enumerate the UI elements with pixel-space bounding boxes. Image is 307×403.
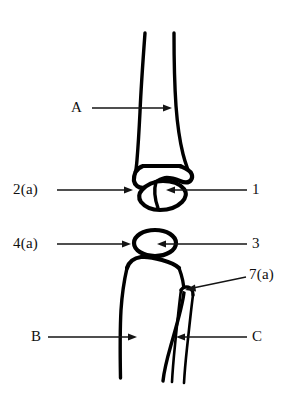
anatomy-figure: A 2(a) 1 4(a) 3 7(a) B C <box>0 0 307 403</box>
oval-bone-outline <box>134 230 176 256</box>
leader-b <box>48 334 137 341</box>
label-c: C <box>252 329 262 344</box>
label-2a: 2(a) <box>13 182 38 197</box>
lower-bone-proximal-plateau <box>127 257 179 268</box>
label-b: B <box>31 329 41 344</box>
label-4a: 4(a) <box>13 236 38 251</box>
label-1: 1 <box>252 182 260 197</box>
oval-bone-group <box>134 230 176 256</box>
lower-bone-left-border <box>120 268 127 378</box>
leader-7a <box>185 277 246 292</box>
upper-bone-right-border <box>174 33 188 170</box>
label-7a: 7(a) <box>249 267 274 282</box>
leader-a <box>92 105 172 112</box>
small-joint-bone-outline <box>139 181 186 210</box>
upper-bone-left-border <box>136 33 146 172</box>
label-a: A <box>71 100 82 115</box>
leader-4a <box>57 241 131 248</box>
small-joint-bone-group <box>139 181 186 210</box>
label-3: 3 <box>252 236 260 251</box>
leader-2a <box>57 187 133 194</box>
thin-side-bone-right-border <box>184 295 193 383</box>
